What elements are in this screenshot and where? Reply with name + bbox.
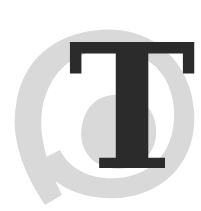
dropcap-illustration: T: [0, 0, 201, 211]
dropcap-letter: T: [68, 38, 178, 178]
